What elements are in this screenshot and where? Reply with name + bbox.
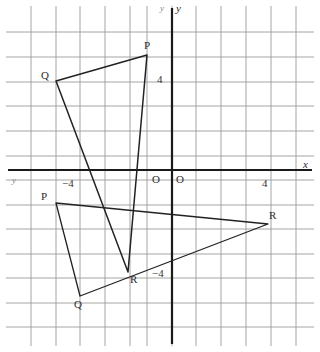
vertex-label-lower-r: R [269, 210, 276, 221]
stray-y-label-bottom-left: y [12, 176, 16, 185]
stray-y-label-top: y [160, 4, 164, 13]
origin-label-left: O [152, 174, 160, 185]
vertex-label-upper-p: P [144, 40, 150, 51]
origin-label-right: O [176, 174, 184, 185]
vertex-label-lower-p: P [41, 191, 47, 202]
tick-label-y-pos-4: 4 [157, 74, 163, 85]
tick-label-x-neg-4: −4 [62, 178, 74, 189]
triangle-lower-shape [56, 203, 268, 296]
tick-label-y-neg-4: −4 [152, 268, 164, 279]
coordinate-plane-svg [0, 0, 320, 352]
figure-canvas: x y y y O O −4 4 4 −4 P Q R P Q R [0, 0, 320, 352]
triangle-upper-shape [56, 55, 147, 272]
x-axis-label: x [303, 159, 308, 170]
vertex-label-lower-q: Q [74, 299, 82, 310]
y-axis-label: y [176, 3, 181, 14]
vertex-label-upper-q: Q [41, 70, 49, 81]
tick-label-x-pos-4: 4 [262, 178, 268, 189]
vertex-label-upper-r: R [130, 274, 137, 285]
